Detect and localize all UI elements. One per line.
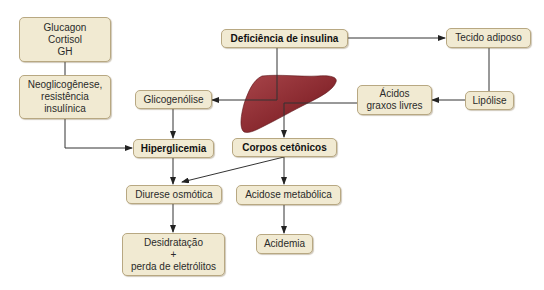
node-label-line: GH (44, 46, 87, 58)
node-deficiencia-insulina: Deficiência de insulina (221, 29, 348, 48)
node-label-line: insulínica (28, 103, 103, 115)
node-acidose-metabolica: Acidose metabólica (236, 185, 341, 205)
node-label-line: Desidratação (131, 237, 216, 249)
node-corpos-cetonicos: Corpos cetônicos (232, 138, 337, 157)
node-label-line: + (131, 249, 216, 261)
node-label: Deficiência de insulina (231, 33, 339, 45)
node-label-line: Glucagon (44, 22, 87, 34)
node-glicogenolise: Glicogenólise (135, 90, 212, 109)
node-label: Acidose metabólica (245, 189, 332, 201)
node-label-line: Cortisol (44, 34, 87, 46)
node-label: Glicogenólise (143, 94, 203, 106)
diagram-canvas: Glucagon Cortisol GH Neoglicogênese, res… (0, 0, 544, 290)
node-acidos-graxos: Ácidos graxos livres (357, 85, 432, 115)
node-desidratacao: Desidratação + perda de eletrólitos (122, 233, 225, 276)
node-label: Diurese osmótica (135, 189, 212, 201)
node-label: Hiperglicemia (141, 143, 207, 155)
node-label: Corpos cetônicos (242, 142, 326, 154)
node-neoglicogenese: Neoglicogênese, resistência insulínica (19, 75, 111, 119)
node-label: Acidemia (264, 238, 305, 250)
node-label-line: Neoglicogênese, (28, 79, 103, 91)
node-hiperglicemia: Hiperglicemia (133, 139, 214, 158)
liver-icon (241, 75, 336, 132)
node-label-line: perda de eletrólitos (131, 261, 216, 273)
node-lipolise: Lipólise (465, 91, 514, 110)
node-acidemia: Acidemia (256, 234, 313, 254)
node-diurese-osmotica: Diurese osmótica (126, 185, 222, 204)
node-label: Lipólise (473, 95, 507, 107)
node-hormones: Glucagon Cortisol GH (19, 17, 111, 62)
node-label-line: Ácidos (366, 88, 422, 100)
node-label: Tecido adiposo (455, 32, 522, 44)
node-tecido-adiposo: Tecido adiposo (446, 28, 531, 48)
node-label-line: graxos livres (366, 100, 422, 112)
node-label-line: resistência (28, 91, 103, 103)
